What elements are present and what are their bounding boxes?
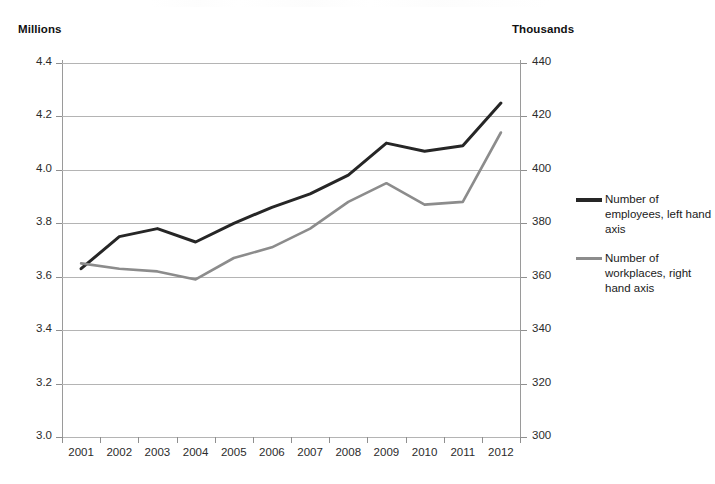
legend-item-employees: Number of employees, left hand axis xyxy=(576,192,712,237)
legend-swatch-workplaces xyxy=(576,257,602,260)
chart-legend: Number of employees, left hand axis Numb… xyxy=(576,192,712,310)
series-line-employees xyxy=(81,103,501,269)
legend-item-workplaces: Number of workplaces, right hand axis xyxy=(576,251,712,296)
legend-swatch-employees xyxy=(576,198,602,202)
chart-container: Millions Thousands 4.44.24.03.83.63.43.2… xyxy=(0,0,715,484)
series-line-workplaces xyxy=(81,133,501,280)
legend-label-workplaces: Number of workplaces, right hand axis xyxy=(605,251,712,296)
legend-label-employees: Number of employees, left hand axis xyxy=(605,192,712,237)
